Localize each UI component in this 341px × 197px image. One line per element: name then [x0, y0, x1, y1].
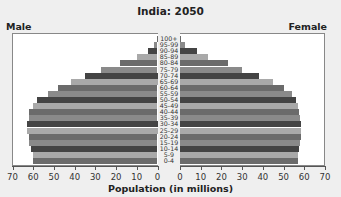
chart-title: India: 2050	[0, 5, 341, 17]
tick-mark	[33, 166, 34, 170]
x-axis-label: Population (in millions)	[0, 183, 341, 194]
tick-label: 40	[65, 172, 85, 182]
female-bar	[180, 158, 298, 164]
tick-label: 50	[44, 172, 64, 182]
tick-mark	[158, 166, 159, 170]
male-label: Male	[6, 21, 32, 32]
tick-mark	[263, 166, 264, 170]
tick-label: 10	[191, 172, 211, 182]
tick-label: 0	[170, 172, 190, 182]
tick-label: 10	[127, 172, 147, 182]
female-label: Female	[288, 21, 327, 32]
tick-label: 20	[106, 172, 126, 182]
age-group-label: 0-4	[158, 158, 180, 164]
tick-label: 50	[274, 172, 294, 182]
tick-mark	[180, 166, 181, 170]
tick-mark	[304, 166, 305, 170]
tick-label: 40	[253, 172, 273, 182]
tick-label: 70	[315, 172, 335, 182]
tick-mark	[13, 166, 14, 170]
male-bar	[33, 158, 157, 164]
tick-mark	[54, 166, 55, 170]
tick-label: 60	[23, 172, 43, 182]
tick-mark	[284, 166, 285, 170]
tick-mark	[221, 166, 222, 170]
tick-mark	[201, 166, 202, 170]
age-group-labels: 100+95-9990-9485-8980-8475-7970-7465-696…	[158, 36, 180, 165]
tick-label: 60	[294, 172, 314, 182]
tick-label: 30	[85, 172, 105, 182]
tick-mark	[75, 166, 76, 170]
tick-mark	[242, 166, 243, 170]
tick-label: 20	[211, 172, 231, 182]
tick-label: 0	[148, 172, 168, 182]
tick-mark	[325, 166, 326, 170]
tick-mark	[95, 166, 96, 170]
tick-mark	[137, 166, 138, 170]
tick-label: 70	[3, 172, 23, 182]
female-x-axis	[180, 166, 325, 167]
tick-mark	[116, 166, 117, 170]
tick-label: 30	[232, 172, 252, 182]
